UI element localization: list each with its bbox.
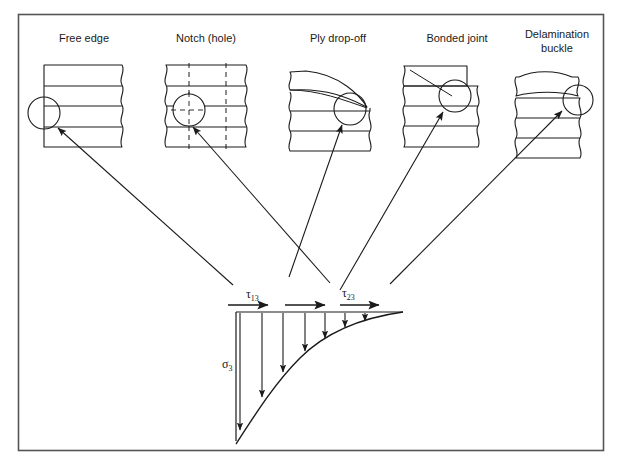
- specimen-label-bonded-joint: Bonded joint: [426, 32, 487, 44]
- specimen-label-delamination-buckle-line1: Delamination: [525, 28, 589, 40]
- figure-border: [19, 15, 604, 451]
- interlaminar-stress-figure: Free edge Notch (hole) Ply drop-off: [0, 0, 620, 465]
- specimen-label-free-edge: Free edge: [59, 32, 109, 44]
- specimen-label-notch-hole: Notch (hole): [176, 32, 236, 44]
- specimen-label-ply-drop-off: Ply drop-off: [310, 32, 367, 44]
- figure-canvas: Free edge Notch (hole) Ply drop-off: [0, 0, 620, 465]
- specimen-label-delamination-buckle-line2: buckle: [541, 42, 573, 54]
